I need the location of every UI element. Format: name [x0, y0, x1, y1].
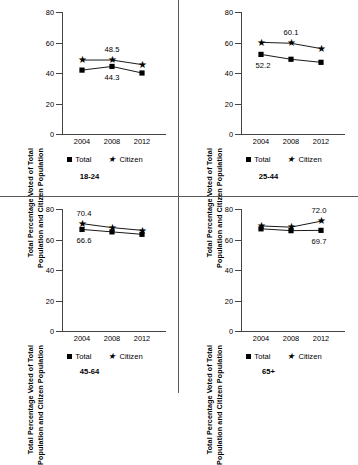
data-point-star: ★ — [287, 37, 296, 48]
x-axis-tick-label: 2008 — [274, 334, 308, 343]
star-marker-icon: ★ — [108, 352, 116, 361]
y-axis-title-line1: Total Percentage Voted of Total — [205, 345, 214, 454]
panel-65-plus: Total Percentage Voted of Total Populati… — [179, 197, 358, 393]
y-axis-title-line1: Total Percentage Voted of Total — [26, 345, 35, 454]
panel-legend: Total ★Citizen — [219, 352, 349, 361]
legend-item-citizen: ★Citizen — [287, 155, 321, 164]
legend-label-citizen: Citizen — [298, 352, 321, 361]
data-value-label: 66.6 — [77, 236, 92, 245]
legend-label-total: Total — [75, 352, 91, 361]
star-marker-icon: ★ — [108, 155, 116, 164]
data-point-square — [288, 57, 293, 62]
panel-title: 65+ — [179, 367, 358, 376]
panel-legend: Total ★Citizen — [219, 155, 349, 164]
data-value-label: 69.7 — [312, 237, 327, 246]
panel-25-44: Total Percentage Voted of Total Populati… — [179, 0, 358, 196]
plot-area: 020406080200420082012★★★72.069.7 — [219, 209, 347, 335]
x-axis-tick-label: 2008 — [95, 334, 129, 343]
data-point-square — [318, 60, 323, 65]
legend-item-total: Total — [246, 352, 270, 361]
x-axis-tick-label: 2004 — [244, 334, 278, 343]
x-axis-tick-label: 2012 — [304, 137, 338, 146]
x-axis-tick-label: 2008 — [274, 137, 308, 146]
y-axis-title-line2: Population and Citizen Population — [36, 345, 45, 465]
y-axis-title: Total Percentage Voted of Total Populati… — [17, 205, 39, 345]
x-axis-tick-label: 2012 — [125, 137, 159, 146]
data-value-label: 70.4 — [77, 208, 92, 217]
data-point-star: ★ — [317, 215, 326, 226]
square-marker-icon — [67, 354, 72, 359]
legend-label-total: Total — [254, 155, 270, 164]
legend-label-citizen: Citizen — [298, 155, 321, 164]
data-point-square — [79, 68, 84, 73]
data-point-star: ★ — [78, 218, 87, 229]
data-value-label: 60.1 — [284, 28, 299, 37]
data-value-label: 44.3 — [105, 73, 120, 82]
legend-item-citizen: ★Citizen — [108, 352, 142, 361]
data-value-label: 72.0 — [312, 206, 327, 215]
plot-area: 020406080200420082012★★★48.544.3 — [40, 12, 168, 138]
panel-title: 45-64 — [0, 367, 179, 376]
series-layer: ★★★ — [219, 209, 347, 335]
data-point-star: ★ — [317, 43, 326, 54]
x-axis-tick-label: 2004 — [65, 334, 99, 343]
data-point-star: ★ — [138, 59, 147, 70]
data-point-square — [139, 70, 144, 75]
y-axis-title: Total Percentage Voted of Total Populati… — [196, 205, 218, 345]
x-axis-tick-label: 2008 — [95, 137, 129, 146]
square-marker-icon — [67, 157, 72, 162]
series-layer: ★★★ — [40, 209, 168, 335]
data-point-star: ★ — [78, 54, 87, 65]
square-marker-icon — [246, 157, 251, 162]
x-axis-tick-label: 2012 — [125, 334, 159, 343]
legend-label-citizen: Citizen — [119, 352, 142, 361]
legend-item-citizen: ★Citizen — [108, 155, 142, 164]
x-axis-tick-label: 2004 — [65, 137, 99, 146]
x-axis-tick-label: 2012 — [304, 334, 338, 343]
panel-legend: Total ★Citizen — [40, 352, 170, 361]
panel-legend: Total ★Citizen — [40, 155, 170, 164]
panel-45-64: Total Percentage Voted of Total Populati… — [0, 197, 179, 393]
data-value-label: 48.5 — [105, 45, 120, 54]
square-marker-icon — [246, 354, 251, 359]
legend-label-total: Total — [75, 155, 91, 164]
y-axis-title: Total Percentage Voted of Total Populati… — [196, 8, 218, 148]
legend-item-total: Total — [67, 352, 91, 361]
y-axis-title: Total Percentage Voted of Total Populati… — [17, 8, 39, 148]
data-point-star: ★ — [257, 220, 266, 231]
panel-title: 18-24 — [0, 172, 179, 181]
panel-18-24: Total Percentage Voted of Total Populati… — [0, 0, 179, 196]
legend-item-total: Total — [67, 155, 91, 164]
data-point-star: ★ — [108, 222, 117, 233]
star-marker-icon: ★ — [287, 155, 295, 164]
data-point-square — [258, 52, 263, 57]
legend-label-total: Total — [254, 352, 270, 361]
data-value-label: 52.2 — [256, 61, 271, 70]
data-point-star: ★ — [287, 221, 296, 232]
panel-title: 25-44 — [179, 172, 358, 181]
data-point-star: ★ — [108, 54, 117, 65]
data-point-square — [318, 228, 323, 233]
legend-item-citizen: ★Citizen — [287, 352, 321, 361]
x-axis-tick-label: 2004 — [244, 137, 278, 146]
data-point-star: ★ — [257, 37, 266, 48]
y-axis-title-line2: Population and Citizen Population — [215, 345, 224, 465]
plot-area: 020406080200420082012★★★70.466.6 — [40, 209, 168, 335]
data-point-star: ★ — [138, 225, 147, 236]
legend-label-citizen: Citizen — [119, 155, 142, 164]
legend-item-total: Total — [246, 155, 270, 164]
plot-area: 020406080200420082012★★★60.152.2 — [219, 12, 347, 138]
star-marker-icon: ★ — [287, 352, 295, 361]
